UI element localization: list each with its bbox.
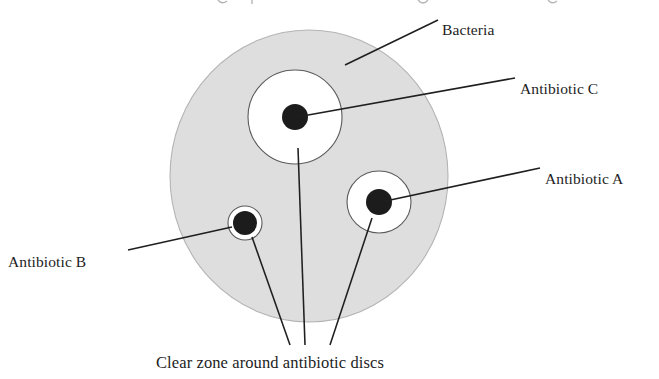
label-antibiotic-c: Antibiotic C — [520, 80, 598, 97]
caption-clear-zone: Clear zone around antibiotic discs — [156, 353, 384, 372]
label-bacteria: Bacteria — [442, 21, 494, 38]
antibiotic-disc-c — [282, 104, 308, 130]
antibiotic-disc-diffusion-diagram: Bacteria Antibiotic C Antibiotic A Antib… — [0, 0, 659, 379]
antibiotic-disc-a — [366, 189, 392, 215]
antibiotic-disc-b — [233, 211, 257, 235]
diagram-page: Bacteria Antibiotic C Antibiotic A Antib… — [0, 0, 659, 379]
clipped-heading-fragments — [218, 0, 557, 4]
label-antibiotic-b: Antibiotic B — [8, 253, 86, 270]
label-antibiotic-a: Antibiotic A — [545, 170, 624, 187]
